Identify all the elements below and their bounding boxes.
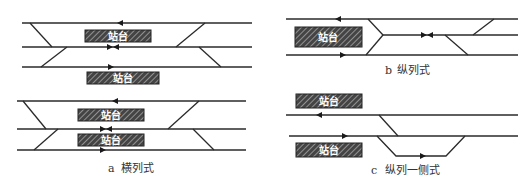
direction-arrow-right [420,153,426,159]
platform-label: 站台 [101,109,121,121]
platform-label: 站台 [113,72,133,84]
direction-arrow-left [316,112,322,118]
diagram-a: 站台 站台 a 横列式 [17,98,246,175]
platform-label: 站台 [319,95,339,107]
caption-letter: b [385,64,392,77]
caption-letter: a [108,162,115,175]
crossover [34,129,58,150]
crossover [30,23,52,47]
direction-arrow-right [100,147,106,153]
platform-label: 站台 [108,30,128,42]
crossover [23,101,46,129]
direction-arrow-right [342,133,348,139]
caption-letter: c [371,164,377,177]
direction-arrow-left [106,126,112,132]
crossover [445,35,468,55]
direction-arrow-left [112,98,118,104]
direction-arrow-right [108,64,114,70]
crossover [193,129,214,150]
platform-label: 站台 [319,144,339,156]
platform-label: 站台 [318,31,338,43]
crossover [41,47,67,67]
caption-text: 纵列一侧式 [385,163,440,177]
crossover [379,115,398,136]
siding-track [377,136,465,156]
direction-arrow-right [107,44,113,50]
crossover [199,47,221,67]
direction-arrow-right [100,126,106,132]
diagram-b: 站台 b 纵列式 [286,16,518,77]
direction-arrow-right [340,52,346,58]
crossover [473,19,494,35]
crossover [176,23,205,47]
station-layout-diagram: 站台 站台 站台 站台 a 横列式 站台 [0,0,532,186]
direction-arrow-right [421,32,427,38]
turnout [366,35,383,55]
crossover [168,101,199,129]
direction-arrow-left [335,16,341,22]
diagram-top-left: 站台 站台 [22,20,252,84]
direction-arrow-left [427,32,433,38]
diagram-c: 站台 站台 c 纵列一侧式 [286,94,518,177]
platform-label: 站台 [101,134,121,146]
caption-text: 纵列式 [397,63,430,77]
turnout [368,19,383,35]
direction-arrow-left [117,20,123,26]
direction-arrow-left [113,44,119,50]
caption-text: 横列式 [121,161,154,175]
